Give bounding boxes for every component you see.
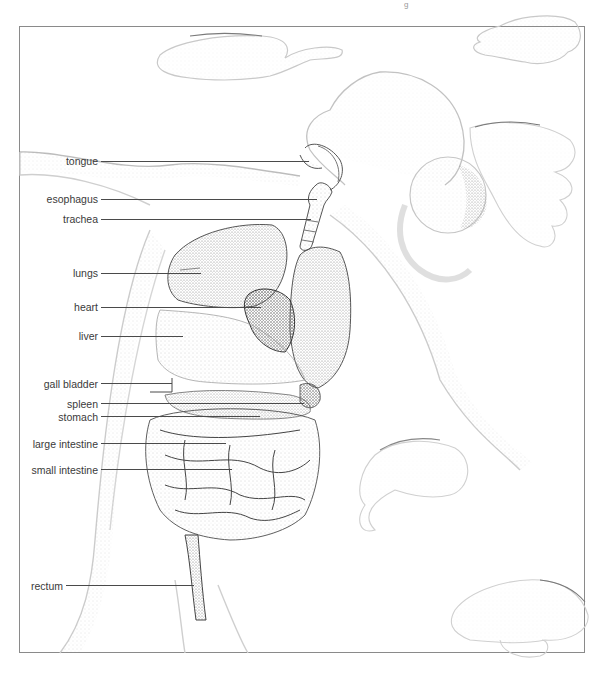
leader-gall-bladder [101, 383, 172, 384]
cloud-top-right [474, 16, 581, 64]
label-spleen: spleen [0, 398, 98, 410]
leader-trachea [101, 219, 311, 220]
cloud-bottom-right [451, 580, 588, 657]
label-rectum: rectum [0, 580, 63, 592]
leader-large-intestine [101, 443, 226, 444]
arm-shading [330, 205, 532, 470]
label-tongue: tongue [0, 155, 98, 167]
label-heart: heart [0, 301, 98, 313]
gall-bladder-pointer [150, 378, 172, 392]
label-trachea: trachea [0, 213, 98, 225]
leader-rectum [66, 585, 194, 586]
leader-stomach [101, 416, 260, 417]
trachea-organ [300, 183, 332, 251]
leader-small-intestine [101, 469, 232, 470]
leader-lungs [101, 273, 201, 274]
cloud-right-middle [470, 122, 575, 247]
anatomy-figure: g [0, 0, 604, 677]
label-large-intestine: large intestine [0, 438, 98, 450]
intestines-organ [146, 409, 320, 540]
label-gall-bladder: gall bladder [0, 378, 98, 390]
rectum-organ [185, 535, 206, 620]
leader-esophagus [101, 199, 317, 200]
leader-spleen [101, 403, 304, 404]
leader-heart [101, 307, 261, 308]
cloud-top-left [157, 33, 342, 80]
leader-tongue [101, 161, 309, 162]
label-small-intestine: small intestine [0, 464, 98, 476]
leader-liver [101, 336, 183, 337]
label-esophagus: esophagus [0, 193, 98, 205]
label-stomach: stomach [0, 411, 98, 423]
label-liver: liver [0, 330, 98, 342]
cloud-right-lower [360, 439, 468, 531]
label-lungs: lungs [0, 267, 98, 279]
